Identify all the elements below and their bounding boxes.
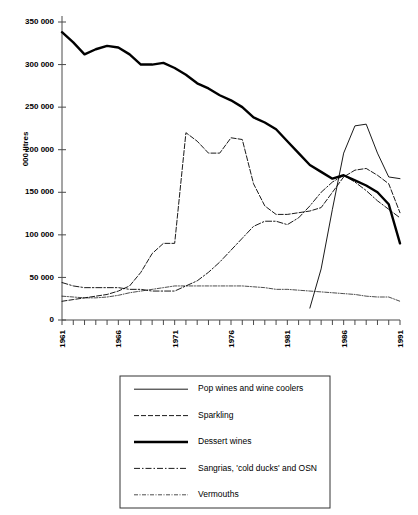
y-tick-label: 100 000 [25,230,54,239]
series-line-3 [62,175,400,291]
y-tick-label: 50 000 [30,273,55,282]
series-line-4 [62,286,400,301]
line-chart: 050 000100 000150 000200 000250 000300 0… [0,0,418,515]
series-line-0 [310,124,400,308]
chart-figure: 050 000100 000150 000200 000250 000300 0… [0,0,418,515]
series-line-1 [62,133,400,302]
x-tick-label: 1986 [340,329,349,347]
legend-label: Dessert wines [198,436,251,446]
y-tick-label: 0 [50,315,55,324]
legend-label: Sparkling [198,410,234,420]
x-tick-label: 1981 [283,329,292,347]
y-axis-ticks: 050 000100 000150 000200 000250 000300 0… [25,17,66,324]
x-tick-label: 1991 [396,329,405,347]
legend: Pop wines and wine coolersSparklingDesse… [120,376,330,508]
x-tick-label: 1976 [227,329,236,347]
legend-label: Sangrias, 'cold ducks' and OSN [198,463,317,473]
y-axis-title: 000 litres [21,131,30,166]
axes [62,16,400,320]
x-tick-label: 1966 [114,329,123,347]
y-tick-label: 250 000 [25,102,54,111]
x-axis-ticks: 1961196619711976198119861991 [58,320,405,348]
y-tick-label: 300 000 [25,60,54,69]
y-tick-label: 350 000 [25,17,54,26]
x-tick-label: 1971 [171,329,180,347]
series-group [62,32,400,308]
x-tick-label: 1961 [58,329,67,347]
legend-label: Pop wines and wine coolers [198,383,303,393]
y-tick-label: 150 000 [25,187,54,196]
svg-text:000 litres: 000 litres [21,131,30,166]
legend-label: Vermouths [198,489,239,499]
